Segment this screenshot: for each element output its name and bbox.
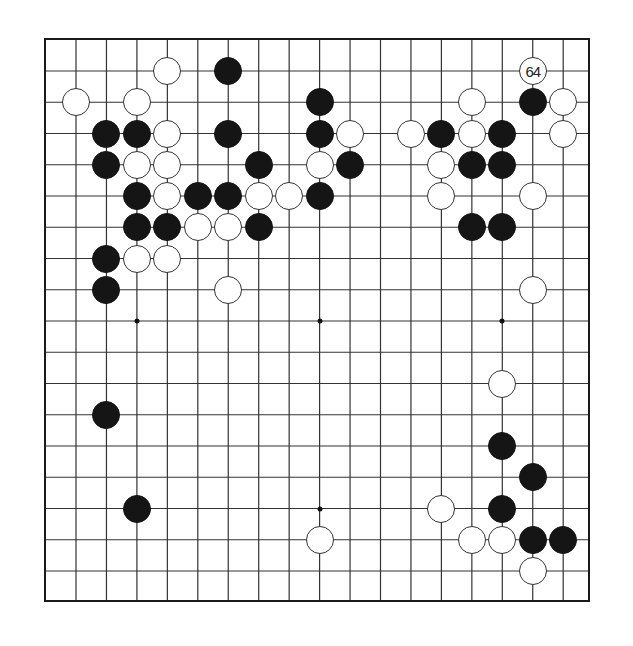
black-stone xyxy=(306,182,334,210)
white-stone xyxy=(153,151,181,179)
black-stone xyxy=(549,526,577,554)
black-stone xyxy=(92,401,120,429)
white-stone xyxy=(275,182,303,210)
white-stone xyxy=(123,245,151,273)
white-stone xyxy=(458,526,486,554)
white-stone xyxy=(153,245,181,273)
white-stone xyxy=(458,120,486,148)
black-stone xyxy=(214,182,242,210)
black-stone xyxy=(336,151,364,179)
white-stone xyxy=(397,120,425,148)
white-stone xyxy=(306,151,334,179)
white-stone xyxy=(153,182,181,210)
white-stone xyxy=(336,120,364,148)
star-point xyxy=(317,506,322,511)
black-stone xyxy=(488,495,516,523)
black-stone xyxy=(245,151,273,179)
white-stone xyxy=(488,526,516,554)
black-stone xyxy=(519,88,547,116)
white-stone xyxy=(427,151,455,179)
white-stone xyxy=(427,182,455,210)
black-stone xyxy=(306,120,334,148)
black-stone xyxy=(519,526,547,554)
black-stone xyxy=(214,120,242,148)
white-stone xyxy=(306,526,334,554)
white-stone xyxy=(153,120,181,148)
white-stone xyxy=(184,213,212,241)
black-stone xyxy=(92,276,120,304)
go-board: 64 xyxy=(44,38,590,602)
black-stone xyxy=(123,182,151,210)
white-stone xyxy=(123,88,151,116)
white-stone xyxy=(427,495,455,523)
black-stone xyxy=(153,213,181,241)
black-stone xyxy=(123,495,151,523)
black-stone xyxy=(306,88,334,116)
black-stone xyxy=(488,213,516,241)
black-stone xyxy=(92,120,120,148)
white-stone xyxy=(153,57,181,85)
black-stone xyxy=(488,151,516,179)
star-point xyxy=(317,319,322,324)
move-number-label: 64 xyxy=(525,64,540,79)
black-stone xyxy=(184,182,212,210)
white-stone xyxy=(488,370,516,398)
white-stone xyxy=(458,88,486,116)
white-stone xyxy=(245,182,273,210)
white-stone xyxy=(519,276,547,304)
white-stone xyxy=(62,88,90,116)
black-stone xyxy=(519,463,547,491)
black-stone xyxy=(458,151,486,179)
black-stone xyxy=(245,213,273,241)
white-stone xyxy=(519,557,547,585)
white-stone: 64 xyxy=(519,57,547,85)
white-stone xyxy=(549,88,577,116)
white-stone xyxy=(214,276,242,304)
star-point xyxy=(134,319,139,324)
black-stone xyxy=(458,213,486,241)
white-stone xyxy=(549,120,577,148)
white-stone xyxy=(519,182,547,210)
black-stone xyxy=(488,432,516,460)
black-stone xyxy=(488,120,516,148)
white-stone xyxy=(214,213,242,241)
black-stone xyxy=(123,120,151,148)
black-stone xyxy=(427,120,455,148)
black-stone xyxy=(123,213,151,241)
star-point xyxy=(500,319,505,324)
white-stone xyxy=(123,151,151,179)
black-stone xyxy=(92,151,120,179)
black-stone xyxy=(92,245,120,273)
black-stone xyxy=(214,57,242,85)
